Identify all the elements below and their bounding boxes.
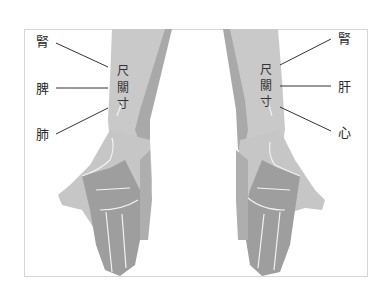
leader-lines	[56, 39, 331, 134]
left-organ-kidney-label: 腎	[36, 35, 49, 48]
left-position-cun-label: 寸	[116, 98, 130, 110]
right-position-chi-label: 尺	[259, 64, 273, 76]
left-position-chi-label: 尺	[116, 65, 130, 77]
wrists-illustration	[0, 0, 387, 297]
left-position-guan-label: 關	[116, 82, 130, 94]
right-position-cun-label: 寸	[259, 96, 273, 108]
right-organ-kidney-label: 腎	[338, 32, 351, 45]
left-organ-lung-label: 肺	[36, 128, 49, 141]
right-organ-heart-label: 心	[338, 126, 351, 139]
right-hand-illustration	[223, 29, 325, 276]
left-hand-illustration	[58, 29, 172, 276]
right-position-guan-label: 關	[259, 80, 273, 92]
left-organ-spleen-label: 脾	[36, 82, 49, 95]
right-organ-liver-label: 肝	[338, 80, 351, 93]
